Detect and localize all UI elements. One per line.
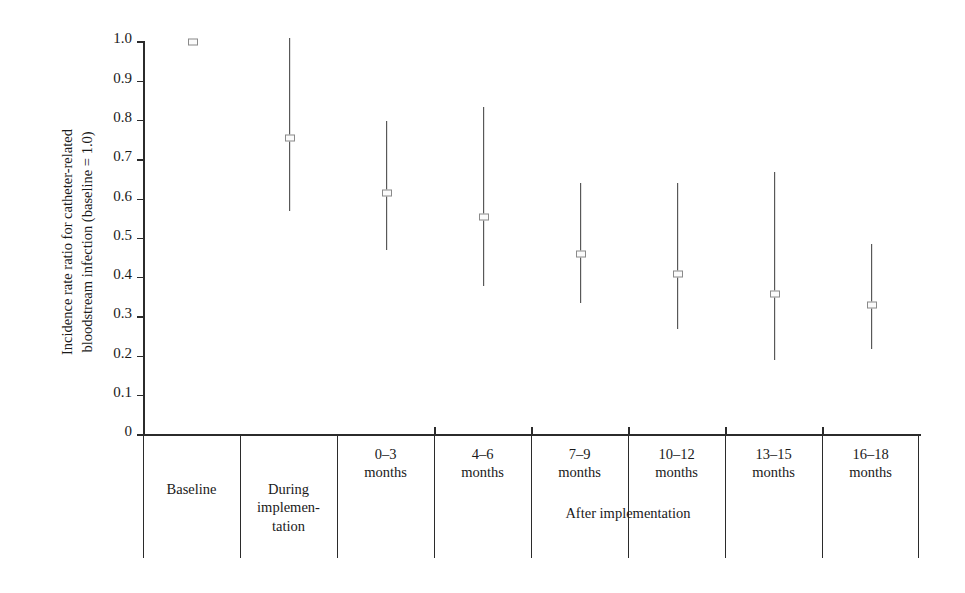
y-axis-tick-label: 1.0: [113, 30, 132, 47]
y-axis-title: Incidence rate ratio for catheter-relate…: [57, 32, 97, 452]
error-bar: [774, 172, 776, 361]
x-axis-tick: [531, 427, 533, 436]
data-point-marker: [382, 190, 392, 197]
category-label: 7–9 months: [531, 445, 628, 482]
data-point-marker: [285, 135, 295, 142]
y-axis-tick-label: 0: [125, 423, 133, 440]
y-axis-tick-label: 0.7: [113, 148, 132, 165]
group-label-after-implementation: After implementation: [337, 505, 919, 522]
category-label: 4–6 months: [434, 445, 531, 482]
error-bar: [289, 38, 291, 211]
y-axis-tick-label: 0.3: [113, 305, 132, 322]
data-point-marker: [770, 290, 780, 297]
y-axis-tick-label: 0.9: [113, 70, 132, 87]
y-axis-tick-label: 0.6: [113, 188, 132, 205]
y-axis-tick-label: 0.5: [113, 227, 132, 244]
y-axis-tick: 0.5: [137, 238, 144, 239]
y-axis-tick: 0.6: [137, 199, 144, 200]
y-axis-tick: 0.7: [137, 159, 144, 160]
y-axis-tick-label: 0.8: [113, 109, 132, 126]
x-axis-tick: [434, 427, 436, 436]
y-axis-tick: 0.3: [137, 316, 144, 317]
y-axis-tick: 0.8: [137, 120, 144, 121]
chart-figure: Incidence rate ratio for catheter-relate…: [0, 0, 965, 593]
y-axis-tick: 0.1: [137, 395, 144, 396]
error-bar: [483, 107, 485, 286]
category-label: During implemen- tation: [240, 480, 337, 535]
error-bar: [580, 183, 582, 303]
y-axis-tick: 0.2: [137, 356, 144, 357]
x-axis-tick: [725, 427, 727, 436]
plot-area: 1.00.90.80.70.60.50.40.30.20.10: [144, 42, 920, 435]
x-axis-tick: [628, 427, 630, 436]
data-point-marker: [188, 39, 198, 46]
error-bar: [677, 183, 679, 328]
category-label: 0–3 months: [337, 445, 434, 482]
y-axis-tick: 0.4: [137, 277, 144, 278]
x-axis-tick: [822, 427, 824, 436]
data-point-marker: [479, 213, 489, 220]
y-axis-tick-label: 0.4: [113, 266, 132, 283]
y-axis-tick: 0.9: [137, 81, 144, 82]
y-axis-tick-label: 0.1: [113, 384, 132, 401]
data-point-marker: [576, 251, 586, 258]
y-axis-tick: 1.0: [137, 41, 144, 42]
category-label: 16–18 months: [822, 445, 919, 482]
error-bar: [386, 121, 388, 251]
error-bar: [871, 244, 873, 348]
y-axis-tick-label: 0.2: [113, 345, 132, 362]
category-label: 10–12 months: [628, 445, 725, 482]
data-point-marker: [673, 270, 683, 277]
category-label: 13–15 months: [725, 445, 822, 482]
data-point-marker: [867, 302, 877, 309]
category-axis-table: BaselineDuring implemen- tation0–3 month…: [143, 436, 921, 558]
category-label: Baseline: [143, 480, 240, 498]
